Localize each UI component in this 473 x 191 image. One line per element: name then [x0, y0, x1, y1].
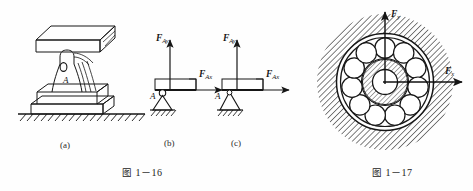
force-label-fx: Fx: [445, 67, 454, 77]
force-subscript: x: [451, 70, 454, 77]
figure-caption-1-16: 图 1－16: [122, 168, 163, 178]
force-subscript: y: [397, 13, 400, 20]
subfigure-a-drawing: [18, 26, 145, 121]
ball: [394, 43, 414, 63]
caption-number: 1－16: [136, 167, 163, 178]
point-label-b: A: [150, 92, 156, 101]
figure-page: A FAy FAx A FAy FAx A Fy Fx (a) (b) (c) …: [0, 0, 473, 191]
pin-hole-a: [60, 63, 67, 72]
ball: [342, 77, 362, 97]
force-subscript: Ay: [162, 37, 168, 44]
force-subscript: Ay: [229, 37, 235, 44]
force-label-fay-c: FAy: [223, 34, 236, 44]
ball: [406, 58, 426, 78]
point-label-a: A: [63, 76, 69, 85]
member-block-b: [155, 79, 196, 90]
shaft-hatch: [355, 52, 417, 114]
figure-caption-1-17: 图 1－17: [372, 168, 413, 178]
force-label-fax-c: FAx: [266, 70, 279, 80]
base-plate-a: [31, 96, 114, 114]
ball: [408, 77, 428, 97]
ball: [356, 43, 376, 63]
pin-joint-b: [159, 90, 165, 96]
caption-cjk-char: 图: [372, 167, 383, 178]
bearing-housing-hatch: [310, 8, 460, 158]
outer-race-outer: [337, 34, 434, 131]
shaft-bore: [373, 70, 398, 95]
caption-cjk-char: 图: [122, 167, 133, 178]
bearing-drawing: [310, 8, 462, 158]
top-plate-a: [36, 26, 115, 52]
ball: [385, 105, 405, 125]
subfigure-caption-a: (a): [60, 141, 70, 150]
ball: [350, 95, 370, 115]
caption-number: 1－17: [386, 167, 413, 178]
force-label-fax-b: FAx: [199, 70, 212, 80]
inner-race-outer: [362, 59, 409, 106]
bracket-base-a: [37, 84, 108, 104]
ground-hatch-a: [18, 114, 145, 121]
bracket-column-a: [52, 50, 96, 92]
rolling-elements: [342, 38, 428, 126]
member-block-c: [222, 79, 263, 90]
ball: [365, 105, 385, 125]
ball: [375, 38, 395, 58]
point-label-c: A: [215, 92, 221, 101]
force-label-fay-b: FAy: [156, 34, 169, 44]
subfigure-caption-b: (b): [164, 139, 175, 148]
outer-race-inner: [341, 38, 430, 127]
force-label-fy: Fy: [391, 10, 400, 20]
subfigure-caption-c: (c): [231, 139, 241, 148]
inner-race-body: [363, 60, 408, 105]
force-subscript: Ax: [205, 73, 212, 80]
figure-canvas: [0, 0, 473, 191]
ball: [344, 58, 364, 78]
ball: [400, 95, 420, 115]
force-subscript: Ax: [272, 73, 279, 80]
